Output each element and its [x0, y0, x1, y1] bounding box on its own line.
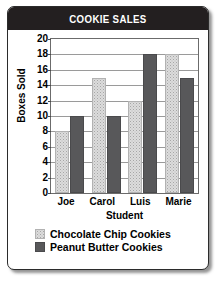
bar-carol-chocolate-chip [92, 78, 106, 194]
y-axis-tick-20: 20 [37, 34, 48, 44]
bar-marie-peanut-butter [180, 78, 194, 194]
legend-item-chocolate-chip: Chocolate Chip Cookies [35, 228, 181, 240]
bar-joe-chocolate-chip [55, 131, 69, 193]
chart-body: Boxes Sold 02468101214161820 JoeCarolLui… [8, 30, 208, 270]
chart-card: COOKIE SALES Boxes Sold 0246810121416182… [7, 6, 209, 270]
legend-swatch-icon [35, 229, 45, 239]
y-axis-tick-14: 14 [37, 80, 48, 90]
x-axis-tick-joe: Joe [57, 196, 74, 207]
y-axis-tick-10: 10 [37, 111, 48, 121]
y-axis-tick-16: 16 [37, 65, 48, 75]
chart-title-banner: COOKIE SALES [8, 7, 208, 30]
x-axis-tick-marie: Marie [165, 196, 191, 207]
bar-joe-peanut-butter [70, 116, 84, 193]
plot-area [50, 38, 199, 194]
y-tickmark-0 [48, 193, 51, 194]
x-axis-tick-luis: Luis [130, 196, 151, 207]
legend-label: Chocolate Chip Cookies [50, 228, 171, 240]
bar-marie-chocolate-chip [165, 54, 179, 193]
bar-group-luis [128, 39, 157, 193]
page-title: COOKIE SALES [69, 13, 146, 25]
bar-group-joe [55, 39, 84, 193]
bar-luis-chocolate-chip [128, 101, 142, 193]
y-axis-tick-labels: 02468101214161820 [26, 38, 48, 194]
legend-label: Peanut Butter Cookies [50, 241, 163, 253]
bar-group-carol [92, 39, 121, 193]
x-axis-label: Student [50, 210, 199, 221]
x-axis-tick-carol: Carol [90, 196, 116, 207]
bar-luis-peanut-butter [143, 54, 157, 193]
x-axis-tick-labels: JoeCarolLuisMarie [50, 196, 199, 207]
bar-group-marie [165, 39, 194, 193]
y-axis-tick-18: 18 [37, 49, 48, 59]
bar-groups [51, 39, 198, 193]
y-axis-tick-12: 12 [37, 96, 48, 106]
bar-carol-peanut-butter [107, 116, 121, 193]
y-axis-label: Boxes Sold [16, 56, 27, 136]
legend-swatch-icon [35, 242, 45, 252]
legend-item-peanut-butter: Peanut Butter Cookies [35, 241, 181, 253]
chart-legend: Chocolate Chip CookiesPeanut Butter Cook… [8, 228, 208, 253]
